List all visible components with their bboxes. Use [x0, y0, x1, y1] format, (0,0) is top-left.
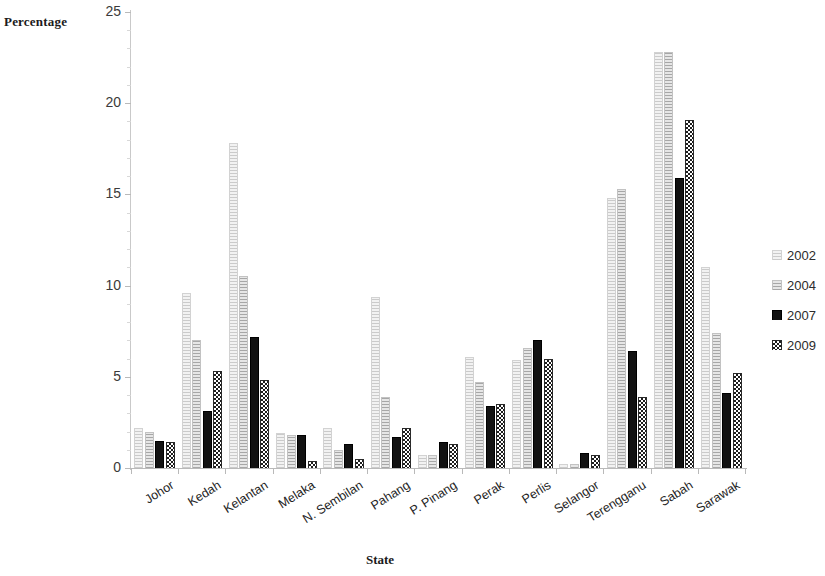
- bar: [166, 442, 175, 468]
- x-axis-title: State: [0, 552, 760, 568]
- bar-chart-figure: Percentage 0510152025 JohorKedahKelantan…: [0, 0, 825, 576]
- x-axis-tick-label: Sarawak: [694, 478, 743, 516]
- bar-group: [559, 12, 600, 468]
- y-axis-tick-label: 25: [91, 3, 121, 19]
- bar-group: [418, 12, 459, 468]
- bar-group: [512, 12, 553, 468]
- bar: [250, 337, 259, 468]
- x-axis-tick-label: Perak: [472, 478, 507, 507]
- plot-area: [131, 12, 745, 468]
- bar: [182, 293, 191, 468]
- bar: [323, 428, 332, 468]
- x-axis-tick-label: P. Pinang: [407, 478, 459, 518]
- bar: [722, 393, 731, 468]
- bar-group: [371, 12, 412, 468]
- x-axis-tick-mark: [509, 469, 510, 474]
- bar: [239, 276, 248, 468]
- x-axis-tick-mark: [225, 469, 226, 474]
- bar-group: [701, 12, 742, 468]
- bar: [428, 455, 437, 468]
- legend-label: 2007: [787, 308, 816, 323]
- bar: [392, 437, 401, 468]
- bar: [544, 359, 553, 468]
- bar: [344, 444, 353, 468]
- bar: [439, 442, 448, 468]
- bar: [192, 340, 201, 468]
- bar: [155, 441, 164, 468]
- x-axis-tick-label: Sabah: [657, 478, 695, 509]
- x-axis-tick-mark: [273, 469, 274, 474]
- bar: [628, 351, 637, 468]
- x-axis-tick-label: Johor: [142, 478, 176, 506]
- legend-item: 2009: [772, 330, 822, 360]
- x-axis-tick-mark: [320, 469, 321, 474]
- y-axis-tick-label: 5: [91, 368, 121, 384]
- bar: [712, 333, 721, 468]
- x-axis-tick-mark: [745, 469, 746, 474]
- legend-item: 2004: [772, 270, 822, 300]
- bar: [701, 267, 710, 468]
- bar: [591, 455, 600, 468]
- bar: [475, 382, 484, 468]
- x-axis-tick-label: Pahang: [368, 478, 412, 513]
- bar: [607, 198, 616, 468]
- y-axis-tick-label: 10: [91, 277, 121, 293]
- legend-swatch-icon: [772, 310, 782, 320]
- bar-group: [134, 12, 175, 468]
- x-axis-tick-mark: [651, 469, 652, 474]
- bar-group: [276, 12, 317, 468]
- bar: [355, 459, 364, 468]
- bar-group: [323, 12, 364, 468]
- bar: [134, 428, 143, 468]
- bar-group: [229, 12, 270, 468]
- bar: [402, 428, 411, 468]
- bar: [418, 455, 427, 468]
- bar: [371, 297, 380, 468]
- x-axis-tick-label: Kedah: [185, 478, 223, 509]
- x-axis-tick-mark: [603, 469, 604, 474]
- legend-label: 2009: [787, 338, 816, 353]
- legend-swatch-icon: [772, 340, 782, 350]
- bar-group: [182, 12, 223, 468]
- bar: [229, 143, 238, 468]
- bar: [276, 433, 285, 468]
- bar: [512, 360, 521, 468]
- bar: [496, 404, 505, 468]
- legend-label: 2004: [787, 278, 816, 293]
- bar: [297, 435, 306, 468]
- chart-legend: 2002200420072009: [772, 240, 822, 360]
- bar: [145, 432, 154, 468]
- y-axis-title: Percentage: [4, 14, 67, 30]
- bar: [213, 371, 222, 468]
- bar: [664, 52, 673, 468]
- bar: [733, 373, 742, 468]
- bar: [638, 397, 647, 468]
- bar: [486, 406, 495, 468]
- bar: [685, 120, 694, 468]
- x-axis-tick-label: Perlis: [520, 478, 554, 506]
- bar: [570, 464, 579, 468]
- bar: [381, 397, 390, 468]
- x-axis-tick-mark: [178, 469, 179, 474]
- y-axis-tick-label: 20: [91, 94, 121, 110]
- legend-item: 2002: [772, 240, 822, 270]
- bar: [617, 189, 626, 468]
- bar: [334, 450, 343, 468]
- bar: [654, 52, 663, 468]
- x-axis-tick-mark: [556, 469, 557, 474]
- bar: [260, 380, 269, 468]
- x-axis-tick-mark: [698, 469, 699, 474]
- bar: [523, 348, 532, 468]
- x-axis-tick-mark: [367, 469, 368, 474]
- bar-group: [654, 12, 695, 468]
- bar: [449, 444, 458, 468]
- x-axis-line: [130, 468, 747, 469]
- bar: [533, 340, 542, 468]
- legend-swatch-icon: [772, 280, 782, 290]
- y-axis-tick-label: 15: [91, 185, 121, 201]
- legend-swatch-icon: [772, 250, 782, 260]
- bar-group: [465, 12, 506, 468]
- x-axis-tick-label: Kelantan: [221, 478, 270, 516]
- y-axis-tick-label: 0: [91, 459, 121, 475]
- legend-label: 2002: [787, 248, 816, 263]
